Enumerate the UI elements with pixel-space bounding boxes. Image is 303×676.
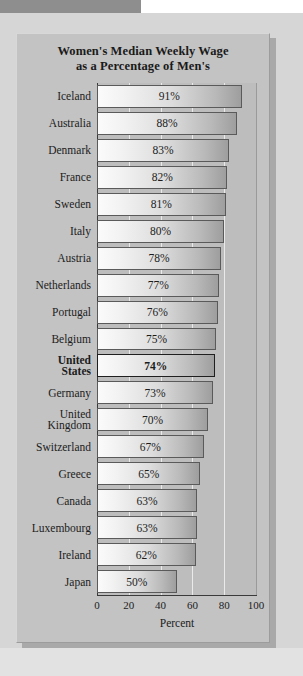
chart-card: Women's Median Weekly Wage as a Percenta…: [16, 33, 270, 643]
category-label: France: [29, 171, 91, 183]
bar-row: Germany73%: [29, 379, 257, 406]
bar-value-label: 83%: [152, 144, 173, 156]
x-axis-ticks: 020406080100: [97, 599, 257, 615]
category-label: Netherlands: [29, 279, 91, 291]
category-label: Italy: [29, 225, 91, 237]
bar-row: Iceland91%: [29, 83, 257, 110]
bar-value-label: 76%: [147, 306, 168, 318]
bar: 62%: [97, 543, 196, 566]
top-dark-band: [0, 0, 141, 13]
bar-row: Greece65%: [29, 460, 257, 487]
bar: 73%: [97, 381, 213, 404]
bar-row: Italy80%: [29, 218, 257, 245]
category-label: Sweden: [29, 198, 91, 210]
x-tick-label: 80: [219, 599, 230, 611]
category-label: Iceland: [29, 90, 91, 102]
bar: 70%: [97, 408, 208, 431]
category-label: Denmark: [29, 144, 91, 156]
bar-value-label: 74%: [144, 360, 167, 372]
bar: 88%: [97, 112, 237, 135]
category-label: Japan: [29, 576, 91, 588]
category-label: Austria: [29, 252, 91, 264]
bar-row: Netherlands77%: [29, 272, 257, 299]
bar-row: UnitedKingdom70%: [29, 406, 257, 433]
bar: 77%: [97, 274, 219, 297]
x-axis-line: [97, 595, 257, 596]
bar: 63%: [97, 489, 197, 512]
category-label: UnitedKingdom: [29, 408, 91, 431]
bar-value-label: 75%: [146, 333, 167, 345]
category-label: Germany: [29, 387, 91, 399]
bar-row: UnitedStates74%: [29, 352, 257, 379]
bar-value-label: 67%: [140, 441, 161, 453]
category-label: Switzerland: [29, 441, 91, 453]
bar-row: Luxembourg63%: [29, 514, 257, 541]
chart-title-line-1: Women's Median Weekly Wage: [17, 44, 269, 59]
bar-value-label: 62%: [136, 549, 157, 561]
bar-row: Canada63%: [29, 487, 257, 514]
x-tick-label: 60: [187, 599, 198, 611]
x-tick-label: 0: [94, 599, 100, 611]
bar-value-label: 73%: [144, 387, 165, 399]
bar: 81%: [97, 193, 226, 216]
bar-value-label: 70%: [142, 414, 163, 426]
bar: 74%: [97, 354, 215, 377]
bar-value-label: 63%: [137, 522, 158, 534]
bar-value-label: 80%: [150, 225, 171, 237]
bar: 78%: [97, 247, 221, 270]
bar: 75%: [97, 328, 216, 351]
category-label: Luxembourg: [29, 522, 91, 534]
chart-page: Women's Median Weekly Wage as a Percenta…: [0, 0, 303, 676]
x-tick-label: 20: [123, 599, 134, 611]
category-label: Australia: [29, 117, 91, 129]
bar-value-label: 82%: [152, 171, 173, 183]
bar-row: Belgium75%: [29, 326, 257, 353]
bar-value-label: 63%: [137, 495, 158, 507]
bar-value-label: 88%: [156, 117, 177, 129]
category-label: UnitedStates: [29, 354, 91, 377]
category-label: Canada: [29, 495, 91, 507]
top-white-band: [141, 0, 303, 13]
category-label: Greece: [29, 468, 91, 480]
bar-value-label: 65%: [138, 468, 159, 480]
bottom-background: [0, 648, 303, 676]
x-tick-label: 100: [248, 599, 265, 611]
bar: 50%: [97, 570, 177, 593]
category-label: Portugal: [29, 306, 91, 318]
bar: 80%: [97, 220, 224, 243]
bar: 83%: [97, 139, 229, 162]
bar: 63%: [97, 516, 197, 539]
bar: 67%: [97, 435, 204, 458]
bar-row: Switzerland67%: [29, 433, 257, 460]
bar: 82%: [97, 166, 227, 189]
bar: 76%: [97, 301, 218, 324]
bar-value-label: 91%: [159, 90, 180, 102]
chart-title-line-2: as a Percentage of Men's: [17, 59, 269, 74]
plot-area: Iceland91%Australia88%Denmark83%France82…: [29, 83, 257, 595]
chart-title: Women's Median Weekly Wage as a Percenta…: [17, 44, 269, 74]
bar-value-label: 77%: [148, 279, 169, 291]
bar-row: Ireland62%: [29, 541, 257, 568]
bar-value-label: 50%: [126, 576, 147, 588]
bar-row: Denmark83%: [29, 137, 257, 164]
bar-row: Portugal76%: [29, 299, 257, 326]
bar-value-label: 78%: [148, 252, 169, 264]
bar: 65%: [97, 462, 200, 485]
bar: 91%: [97, 85, 242, 108]
category-label: Ireland: [29, 549, 91, 561]
bar-row: Austria78%: [29, 245, 257, 272]
bar-row: Sweden81%: [29, 191, 257, 218]
x-tick-label: 40: [155, 599, 166, 611]
category-label: Belgium: [29, 333, 91, 345]
x-axis-title: Percent: [97, 617, 257, 629]
bar-row: Japan50%: [29, 568, 257, 595]
bar-row: France82%: [29, 164, 257, 191]
bar-value-label: 81%: [151, 198, 172, 210]
bar-row: Australia88%: [29, 110, 257, 137]
